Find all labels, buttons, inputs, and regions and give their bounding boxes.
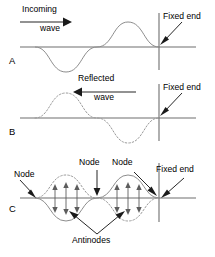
panel-b-letter: B xyxy=(9,126,15,137)
panel-c-antinode-right-callout-shaft xyxy=(97,215,120,234)
panel-a-direction-arrow-head-right xyxy=(63,18,72,27)
panel-c-node-right-label: Node xyxy=(112,158,133,167)
panel-a-incoming-label-bottom: wave xyxy=(40,24,60,33)
panel-c-antinode-left-callout-shaft xyxy=(74,215,97,234)
panel-a-group xyxy=(20,13,196,72)
panel-a-incoming-label-top: Incoming xyxy=(22,5,57,14)
panel-a-fixed-end-label: Fixed end xyxy=(163,12,201,21)
standing-wave-diagram: Incoming wave Fixed end A Reflected wave… xyxy=(0,0,215,257)
panel-c-node-left-callout-head xyxy=(28,190,37,199)
panel-a-letter: A xyxy=(9,55,15,66)
panel-c-fixed-end-label: Fixed end xyxy=(156,165,194,174)
panel-b-direction-arrow-head-left xyxy=(73,88,82,97)
panel-c-antinodes-label: Antinodes xyxy=(72,236,110,245)
panel-c-node-right-callout-shaft xyxy=(134,172,152,190)
panel-c-node-right-callout-head xyxy=(148,187,158,197)
panel-c-node-left-label: Node xyxy=(14,170,35,179)
panel-c-node-middle-label: Node xyxy=(79,158,100,167)
panel-b-reflected-label-bottom: wave xyxy=(94,93,114,102)
panel-c-node-middle-callout-head xyxy=(94,188,101,196)
diagram-canvas xyxy=(0,0,215,257)
panel-c-letter: C xyxy=(9,203,16,214)
panel-b-fixed-end-label: Fixed end xyxy=(163,83,201,92)
panel-b-reflected-label-top: Reflected xyxy=(78,74,114,83)
